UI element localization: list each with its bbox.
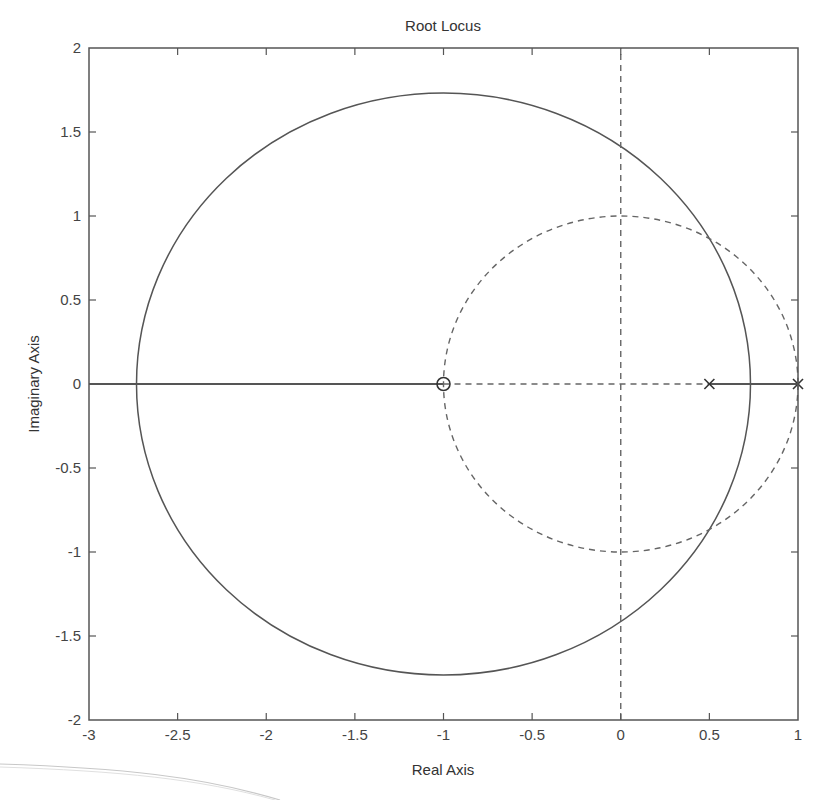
x-tick-label: -0.5 [519, 726, 545, 743]
root-locus-chart: Root Locus -3-2.5-2-1.5-1-0.500.51 -2-1.… [0, 0, 822, 800]
x-tick-label: -1 [437, 726, 450, 743]
y-axis-label: Imaginary Axis [25, 335, 42, 433]
y-tick-label: 1 [73, 207, 81, 224]
y-tick-label: -0.5 [55, 459, 81, 476]
x-tick-label: 0.5 [699, 726, 720, 743]
y-tick-label: 2 [73, 39, 81, 56]
x-tick-label: 1 [794, 726, 802, 743]
page-edge-shadow [0, 764, 280, 800]
y-tick-label: 1.5 [60, 123, 81, 140]
x-tick-label: -3 [82, 726, 95, 743]
x-tick-label: -2 [260, 726, 273, 743]
y-tick-label: 0.5 [60, 291, 81, 308]
x-axis: -3-2.5-2-1.5-1-0.500.51 [82, 48, 802, 743]
x-tick-label: -1.5 [342, 726, 368, 743]
y-tick-label: -1 [68, 543, 81, 560]
x-tick-label: -2.5 [165, 726, 191, 743]
y-tick-label: 0 [73, 375, 81, 392]
chart-title: Root Locus [405, 17, 481, 34]
x-tick-label: 0 [617, 726, 625, 743]
plot-area [89, 48, 803, 720]
x-axis-label: Real Axis [412, 761, 475, 778]
y-tick-label: -2 [68, 711, 81, 728]
y-tick-label: -1.5 [55, 627, 81, 644]
